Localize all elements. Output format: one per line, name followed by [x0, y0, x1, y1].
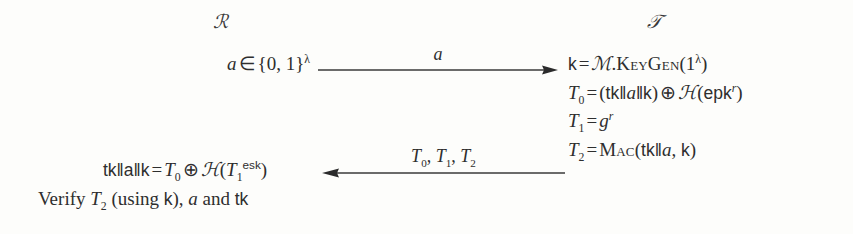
- right-party-label: 𝒯: [647, 10, 663, 33]
- token-key-tk: tk: [641, 140, 655, 160]
- lambda-exponent: λ: [304, 53, 310, 66]
- t0-symbol: T: [568, 82, 579, 103]
- message-arrow-response-label: T0, T1, T2: [322, 146, 565, 167]
- keygen-arg-open: (1: [680, 53, 696, 74]
- equals-sign: =: [577, 53, 592, 74]
- right-line-t0: T0=(tk‖a‖k)⊕ℋ(epkr): [568, 81, 743, 104]
- mac-scheme-symbol: ℳ: [591, 52, 611, 74]
- concat-bar: ‖: [655, 140, 662, 160]
- verify-tk: tk: [235, 189, 249, 209]
- equals-sign: =: [584, 82, 599, 103]
- t2-symbol: T: [90, 188, 101, 209]
- and-word: and: [203, 188, 230, 209]
- protocol-diagram: ℛ 𝒯 a∈{0, 1}λ tk‖a‖k=T0⊕ℋ(T1esk) Verify …: [0, 0, 853, 234]
- comma-separator: ,: [671, 139, 676, 160]
- mac-operator: Mac: [599, 139, 635, 160]
- verify-word: Verify: [38, 188, 85, 209]
- esk-exponent: esk: [243, 158, 261, 171]
- message-arrow-response: [322, 167, 565, 179]
- response-t0: T: [411, 146, 421, 166]
- response-t2-subscript: 2: [470, 157, 476, 169]
- using-open: (using: [111, 188, 159, 209]
- token-key-tk: tk: [606, 83, 620, 103]
- right-line-t1: T1=gr: [568, 110, 613, 132]
- equals-sign: =: [584, 110, 599, 131]
- decrypt-lhs: tk‖a‖k: [103, 160, 150, 180]
- bit-set: {0, 1}: [258, 53, 305, 74]
- xor-symbol: ⊕: [181, 159, 201, 180]
- hash-paren-close: ): [736, 82, 742, 103]
- message-arrow-request-label: a: [318, 44, 558, 65]
- request-label-a: a: [434, 44, 443, 64]
- t0-subscript: 0: [175, 171, 181, 184]
- paren-close: ): [690, 139, 696, 160]
- left-party-label: ℛ: [213, 10, 229, 32]
- t2-subscript: 2: [101, 200, 107, 213]
- equals-sign: =: [150, 159, 165, 180]
- hash-function-symbol: ℋ: [678, 81, 697, 103]
- left-line-decrypt: tk‖a‖k=T0⊕ℋ(T1esk): [103, 158, 267, 181]
- keygen-k: k: [568, 54, 577, 74]
- keygen-arg-close: ): [701, 53, 707, 74]
- right-line-t2: T2=Mac(tk‖a, k): [568, 139, 696, 161]
- left-line-verify: Verify T2 (using k), a and tk: [38, 188, 248, 210]
- response-t1: T: [436, 146, 446, 166]
- nonce-a: a: [626, 82, 636, 103]
- left-party-symbol: ℛ: [213, 10, 229, 32]
- right-party-symbol: 𝒯: [647, 10, 663, 32]
- generator-g: g: [599, 110, 609, 131]
- keygen-operator: KeyGen: [616, 53, 679, 74]
- t2-symbol: T: [568, 139, 579, 160]
- hash-function-symbol: ℋ: [201, 158, 220, 180]
- comma-separator: ,: [451, 146, 456, 166]
- left-line-sample-a: a∈{0, 1}λ: [110, 52, 310, 75]
- using-close: ),: [172, 188, 183, 209]
- verify-a: a: [188, 188, 198, 209]
- element-of-symbol: ∈: [237, 53, 258, 74]
- key-k: k: [681, 140, 690, 160]
- key-k: k: [643, 83, 652, 103]
- response-t2: T: [460, 146, 470, 166]
- right-line-keygen: k=ℳ.KeyGen(1λ): [568, 52, 707, 75]
- t1-symbol: T: [568, 110, 579, 131]
- t1-symbol: T: [226, 159, 237, 180]
- xor-symbol: ⊕: [658, 82, 678, 103]
- equals-sign: =: [584, 139, 599, 160]
- randomness-r: r: [609, 110, 614, 123]
- left-var-a: a: [227, 53, 237, 74]
- t1-subscript: 1: [237, 171, 243, 184]
- nonce-a: a: [662, 139, 672, 160]
- message-arrow-request: [318, 64, 558, 76]
- ephemeral-public-key: epk: [704, 83, 732, 103]
- comma-separator: ,: [427, 146, 432, 166]
- t0-symbol: T: [164, 159, 175, 180]
